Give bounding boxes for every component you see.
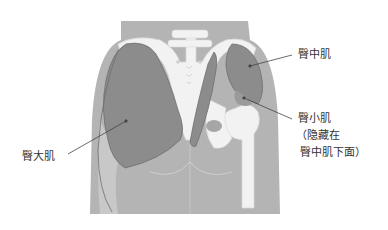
- label-gluteus-medius: 臀中肌: [298, 47, 331, 62]
- label-gluteus-minimus-note-1: （隐藏在: [296, 128, 340, 143]
- label-gluteus-minimus-note-2: 臀中肌下面）: [300, 145, 366, 160]
- label-gluteus-minimus: 臀小肌: [298, 111, 331, 126]
- label-gluteus-maximus: 臀大肌: [22, 149, 55, 164]
